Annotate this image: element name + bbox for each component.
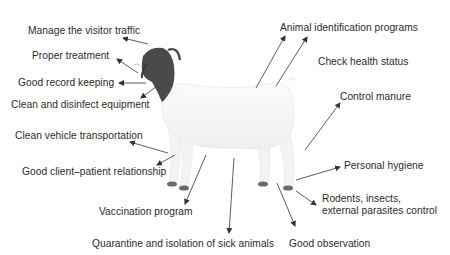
label-quarantine-isolation: Quarantine and isolation of sick animals [92,238,274,250]
arrow-animal-identification [256,36,285,88]
arrow-proper-treatment [117,59,138,73]
arrow-personal-hygiene [296,167,340,180]
label-check-health-status: Check health status [318,56,408,68]
arrow-clean-vehicle-transportation [130,142,168,153]
arrow-clean-disinfect-equipment [141,86,157,98]
label-animal-identification: Animal identification programs [280,22,418,34]
arrow-rodents-insects-parasites [296,191,316,205]
label-good-client-patient-relationship: Good client–patient relationship [22,166,166,178]
label-proper-treatment: Proper treatment [32,50,109,62]
label-control-manure: Control manure [340,91,411,103]
arrow-control-manure [305,103,340,150]
label-personal-hygiene: Personal hygiene [344,160,424,172]
goat-body [154,62,295,186]
label-manage-visitor-traffic: Manage the visitor traffic [28,25,140,37]
label-vaccination-program: Vaccination program [99,206,193,218]
label-clean-vehicle-transportation: Clean vehicle transportation [15,130,143,142]
arrow-quarantine-isolation [229,158,234,233]
label-clean-disinfect-equipment: Clean and disinfect equipment [11,99,150,111]
label-good-observation: Good observation [289,238,370,250]
label-rodents-insects-parasites: Rodents, insects, external parasites con… [322,193,437,217]
arrow-manage-visitor-traffic [123,38,148,44]
goat-biosecurity-diagram: Manage the visitor traffic Proper treatm… [0,0,450,255]
label-good-record-keeping: Good record keeping [18,77,114,89]
